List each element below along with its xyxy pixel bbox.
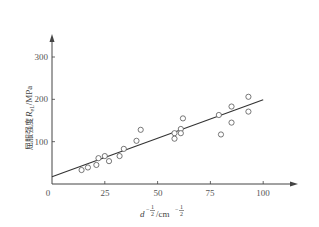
data-point: [246, 94, 251, 99]
x-axis-title: d − 1 2 /cm − 1 2: [140, 204, 184, 219]
x-tick-label: 25: [101, 188, 111, 198]
y-title-text: 屈服强度: [24, 118, 34, 150]
regression-line: [52, 100, 263, 177]
x-tick-label: 75: [206, 188, 216, 198]
data-point: [96, 156, 101, 161]
data-points: [79, 94, 251, 172]
y-axis-title: 屈服强度ReL/MPa: [24, 86, 35, 150]
data-point: [180, 116, 185, 121]
x-title-unit-minus: −: [175, 206, 179, 212]
x-title-unit-exp-bottom: 2: [180, 211, 183, 217]
y-tick-label: 100: [35, 137, 49, 147]
data-point: [79, 167, 84, 172]
data-point: [246, 109, 251, 114]
data-point: [229, 104, 234, 109]
y-title-unit: /MPa: [24, 86, 34, 106]
x-title-unit-exp-top: 1: [180, 204, 183, 210]
x-title-exp-top: 1: [151, 204, 154, 210]
y-tick-label: 300: [35, 52, 49, 62]
data-point: [94, 162, 99, 167]
data-point: [102, 153, 107, 158]
x-title-unit: /cm: [156, 209, 170, 219]
origin-label: 0: [46, 188, 51, 198]
x-title-exp-minus: −: [146, 206, 150, 212]
data-point: [121, 146, 126, 151]
data-point: [138, 127, 143, 132]
data-point: [218, 132, 223, 137]
svg-text:屈服强度ReL/MPa: 屈服强度ReL/MPa: [24, 86, 35, 150]
data-point: [172, 136, 177, 141]
data-point: [216, 112, 221, 117]
y-axis-arrow: [50, 34, 55, 42]
x-axis-arrow: [290, 182, 298, 187]
x-tick-label: 50: [154, 188, 164, 198]
data-point: [85, 165, 90, 170]
data-point: [229, 120, 234, 125]
data-point: [106, 159, 111, 164]
data-point: [117, 153, 122, 158]
scatter-chart: 0 25 50 75 100 100 200 300 d − 1 2 /cm −…: [0, 0, 319, 227]
data-point: [134, 138, 139, 143]
x-title-base: d: [140, 209, 145, 219]
data-point: [172, 131, 177, 136]
x-title-exp-bottom: 2: [151, 211, 154, 217]
y-tick-label: 200: [35, 94, 49, 104]
data-point: [178, 131, 183, 136]
x-tick-label: 100: [256, 188, 270, 198]
